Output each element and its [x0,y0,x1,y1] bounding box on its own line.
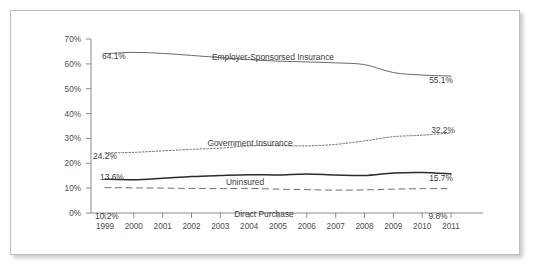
line-chart: 70% 60% 50% 40% 30% 20% 10% 0% [11,11,521,256]
value-label-esi-start: 64.1% [102,51,126,61]
x-tick-label-2004: 2004 [240,222,259,231]
series-line-uninsured [105,172,451,179]
value-label-gov-start: 24.2% [93,151,117,161]
y-tick-label-30: 30% [65,134,81,143]
y-tick-label-70: 70% [65,35,81,44]
y-axis-ticks [86,39,91,213]
x-tick-label-1999: 1999 [96,222,115,231]
value-label-unins-start: 13.6% [100,172,124,182]
y-tick-label-50: 50% [65,85,81,94]
figure-root: 70% 60% 50% 40% 30% 20% 10% 0% [0,0,545,277]
x-tick-label-2008: 2008 [355,222,374,231]
x-tick-label-2000: 2000 [125,222,144,231]
series-annotation-government-insurance: Government Insurance [207,138,293,148]
x-tick-label-2002: 2002 [182,222,201,231]
x-tick-label-2007: 2007 [327,222,346,231]
series-annotation-uninsured: Uninsured [226,177,265,187]
x-tick-label-2011: 2011 [442,222,460,231]
series-line-direct-purchase [105,188,451,190]
value-label-unins-end: 15.7% [429,173,453,183]
y-tick-label-20: 20% [65,159,81,168]
x-tick-label-2006: 2006 [298,222,317,231]
chart-card: 70% 60% 50% 40% 30% 20% 10% 0% [10,10,520,255]
value-label-esi-end: 55.1% [429,75,453,85]
plot-stage: 70% 60% 50% 40% 30% 20% 10% 0% [11,11,521,256]
y-tick-label-40: 40% [65,110,81,119]
y-tick-label-10: 10% [65,184,81,193]
x-tick-label-2005: 2005 [269,222,288,231]
x-tick-label-2009: 2009 [384,222,403,231]
value-label-direct-end: 9.8% [428,211,448,221]
series-annotation-employer-sponsored-insurance: Employer-Sponsorsed Insurance [212,52,334,62]
value-label-direct-start: 10.2% [95,211,119,221]
value-label-gov-end: 32.2% [431,125,455,135]
series-annotation-direct-purchase: Direct Purchase [234,209,294,219]
x-tick-label-2001: 2001 [154,222,173,231]
y-tick-label-0: 0% [69,209,81,218]
x-tick-label-2010: 2010 [413,222,432,231]
x-tick-label-2003: 2003 [211,222,230,231]
y-tick-label-60: 60% [65,60,81,69]
